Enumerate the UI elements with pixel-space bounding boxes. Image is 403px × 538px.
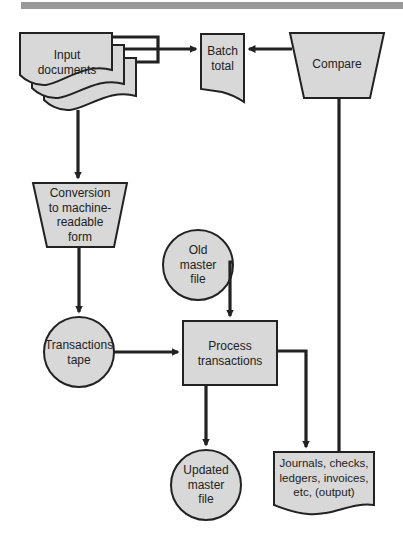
output-label: Journals, checks, ledgers, invoices, etc… (274, 456, 374, 500)
input-documents-label: Input documents (22, 48, 112, 77)
label-line: Journals, checks, (274, 456, 374, 471)
label-line: transactions (183, 354, 277, 369)
label-line: tape (42, 353, 116, 368)
compare-label: Compare (300, 57, 374, 72)
label-line: Transactions (42, 338, 116, 353)
label-line: master (163, 258, 233, 273)
label-line: ledgers, invoices, (274, 471, 374, 486)
label-line: master (171, 478, 241, 493)
transactions-tape-label: Transactions tape (42, 338, 116, 367)
label-line: Input (22, 48, 112, 63)
label-line: to machine- (33, 201, 127, 216)
label-line: documents (22, 63, 112, 78)
label-line: readable (33, 215, 127, 230)
label-line: Updated (171, 463, 241, 478)
label-line: Old (163, 243, 233, 258)
label-line: etc, (output) (274, 485, 374, 500)
batch-total-label: Batch total (201, 44, 244, 73)
label-line: file (171, 492, 241, 507)
updated-master-file-label: Updated master file (171, 463, 241, 507)
label-line: Compare (300, 57, 374, 72)
label-line: file (163, 272, 233, 287)
label-line: Process (183, 339, 277, 354)
edge-process-to-output (277, 351, 306, 447)
label-line: Batch (201, 44, 244, 59)
process-transactions-label: Process transactions (183, 339, 277, 368)
old-master-file-label: Old master file (163, 243, 233, 287)
label-line: form (33, 230, 127, 245)
label-line: total (201, 59, 244, 74)
conversion-label: Conversion to machine- readable form (33, 186, 127, 244)
label-line: Conversion (33, 186, 127, 201)
